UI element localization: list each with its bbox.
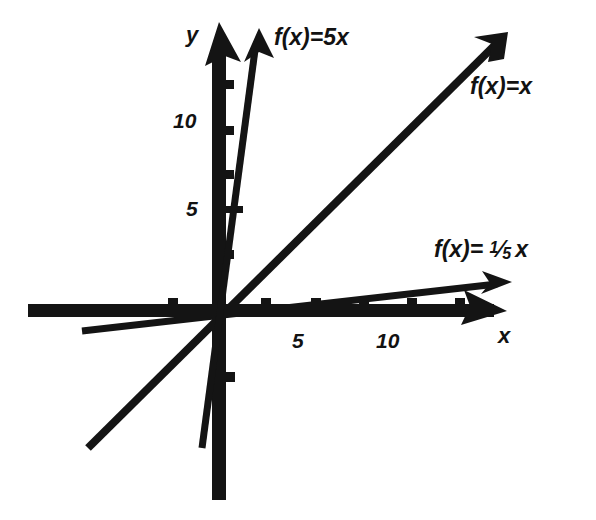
function-label-one-fifth-x: f(x)= 1⁄5x: [434, 238, 528, 262]
function-label-suffix: x: [515, 236, 528, 262]
y-tick-label-5: 5: [186, 198, 198, 219]
x-tick-label-5: 5: [292, 330, 304, 351]
x-axis-label: x: [498, 325, 510, 347]
y-tick-label-10: 10: [173, 110, 196, 131]
line-one-fifth-x: [82, 271, 512, 331]
fraction-denominator: 5: [502, 245, 511, 262]
x-tick-label-10: 10: [376, 330, 399, 351]
graph-figure: y x 10 5 5 10 f(x)=5x f(x)=x f(x)= 1⁄5x: [0, 0, 596, 520]
x-axis: [28, 290, 507, 325]
function-label-prefix: f(x)=: [434, 236, 490, 262]
y-axis-label: y: [186, 24, 198, 46]
fraction-one-fifth: 1⁄5: [490, 238, 512, 262]
function-label-x: f(x)=x: [470, 75, 532, 98]
function-label-five-x: f(x)=5x: [274, 26, 349, 49]
fraction-numerator: 1: [490, 239, 499, 256]
